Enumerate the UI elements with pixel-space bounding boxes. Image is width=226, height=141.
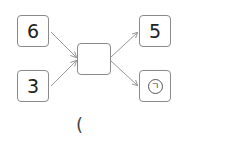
output-value: 5 xyxy=(149,20,161,42)
output-box-5: 5 xyxy=(139,15,171,47)
center-box-empty xyxy=(77,43,111,75)
answer-paren: ( xyxy=(76,114,83,135)
input-value: 6 xyxy=(27,20,39,42)
input-value: 3 xyxy=(27,75,39,97)
input-box-6: 6 xyxy=(17,15,49,47)
arrow-3-to-center xyxy=(51,61,76,86)
arrow-center-to-5 xyxy=(111,33,137,57)
circled-giyeok-symbol: ㄱ xyxy=(148,79,163,94)
input-box-3: 3 xyxy=(17,70,49,102)
arrow-6-to-center xyxy=(51,32,76,57)
output-box-giyeok: ㄱ xyxy=(139,70,171,102)
arrow-center-to-giyeok xyxy=(111,61,137,85)
